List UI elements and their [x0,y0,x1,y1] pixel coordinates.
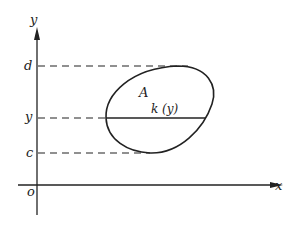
y-axis-label: y [29,12,38,27]
tick-label-d: d [24,58,32,73]
tick-label-y: y [24,109,33,124]
diagram: y x o d y c A k (y) [0,0,299,226]
x-axis-label: x [275,178,283,193]
region-label: A [138,85,148,100]
diagram-canvas: y x o d y c A k (y) [0,0,299,226]
origin-label: o [27,184,35,199]
tick-label-c: c [26,145,34,160]
y-axis-arrow-icon [34,27,40,40]
cross-section-label: k (y) [151,102,179,116]
